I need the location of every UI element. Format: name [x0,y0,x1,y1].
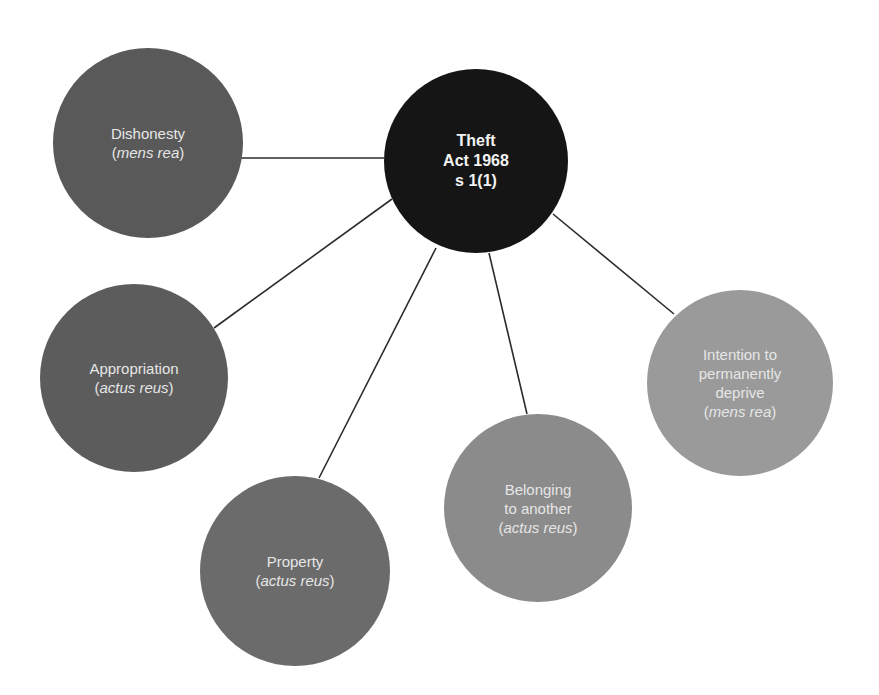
connector-belonging [489,253,527,414]
node-qualifier: (actus reus) [498,518,577,537]
node-qualifier: (mens rea) [112,143,185,162]
node-label: Belonging [505,480,572,499]
node-qualifier: (mens rea) [704,402,777,421]
center-line-3: s 1(1) [455,171,497,191]
node-label: Appropriation [89,359,178,378]
connector-property [319,248,436,478]
node-label: to another [504,499,572,518]
node-belonging-to-another: Belonging to another (actus reus) [444,414,632,602]
node-qualifier: (actus reus) [255,571,334,590]
node-label: Dishonesty [111,124,185,143]
node-label: permanently [699,364,782,383]
node-theft-act: Theft Act 1968 s 1(1) [384,69,568,253]
node-appropriation: Appropriation (actus reus) [40,284,228,472]
theft-act-diagram: Theft Act 1968 s 1(1) Dishonesty (mens r… [0,0,879,695]
node-label: deprive [715,383,764,402]
connector-intention [553,214,674,314]
center-line-1: Theft [456,131,495,151]
node-label: Property [267,552,324,571]
connector-appropriation [214,199,392,328]
node-dishonesty: Dishonesty (mens rea) [53,48,243,238]
center-line-2: Act 1968 [443,151,509,171]
node-label: Intention to [703,345,777,364]
node-property: Property (actus reus) [200,476,390,666]
node-intention-to-permanently-deprive: Intention to permanently deprive (mens r… [647,290,833,476]
node-qualifier: (actus reus) [94,378,173,397]
